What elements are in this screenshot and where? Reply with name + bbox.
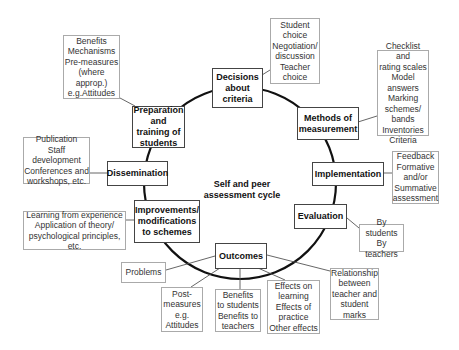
stage-improvements: Improvements/ modifications to schemes [134, 200, 200, 243]
detail-decisions: Student choice Negotiation/ discussion T… [270, 18, 320, 84]
stage-outcomes: Outcomes [215, 243, 267, 269]
stage-evaluation: Evaluation [294, 204, 347, 229]
stage-label: Decisions about criteria [213, 72, 262, 105]
center-label: Self and peer assessment cycle [190, 179, 294, 201]
stage-label: Dissemination [107, 168, 169, 179]
detail-implementation: Feedback Formative and/or Summative asse… [392, 151, 439, 204]
detail-text: Learning from experience Application of … [24, 210, 125, 252]
detail-text: Checklist and rating scales Model answer… [378, 41, 428, 146]
detail-text: Problems [126, 267, 162, 278]
detail-text: Publication Staff development Conference… [24, 134, 89, 187]
outcome-post-measures: Post- measures e.g. Attitudes [161, 287, 203, 332]
outcome-relationship: Relationship between teacher and student… [330, 268, 379, 320]
detail-improvements: Learning from experience Application of … [23, 211, 126, 250]
outcome-benefits: Benefits to students Benefits to teacher… [215, 289, 261, 332]
stage-label: Methods of measurement [299, 113, 358, 135]
stage-decisions: Decisions about criteria [212, 68, 263, 108]
detail-methods: Checklist and rating scales Model answer… [377, 50, 429, 136]
stage-label: Outcomes [219, 251, 263, 262]
detail-text: Benefits to students Benefits to teacher… [217, 290, 259, 332]
detail-dissemination: Publication Staff development Conference… [23, 137, 90, 184]
detail-text: Feedback Formative and/or Summative asse… [393, 151, 438, 204]
detail-text: Relationship between teacher and student… [331, 268, 378, 321]
stage-preparation: Preparation and training of students [132, 106, 185, 148]
assessment-cycle-diagram: Self and peer assessment cycle Decisions… [0, 0, 459, 350]
stage-implementation: Implementation [312, 162, 384, 186]
stage-label: Implementation [315, 169, 382, 180]
outcome-effects: Effects on learning Effects of practice … [267, 280, 320, 334]
stage-label: Improvements/ modifications to schemes [135, 205, 199, 238]
stage-methods: Methods of measurement [297, 107, 359, 140]
detail-text: Student choice Negotiation/ discussion T… [272, 20, 317, 83]
detail-text: Benefits Mechanisms Pre-measures (where … [65, 36, 118, 99]
detail-preparation: Benefits Mechanisms Pre-measures (where … [63, 35, 120, 99]
stage-label: Evaluation [298, 211, 344, 222]
outcome-problems: Problems [121, 262, 166, 283]
detail-text: Effects on learning Effects of practice … [269, 281, 318, 334]
stage-dissemination: Dissemination [107, 161, 168, 186]
detail-text: Post- measures e.g. Attitudes [163, 289, 200, 331]
stage-label: Preparation and training of students [133, 105, 183, 149]
detail-evaluation: By students By teachers [359, 224, 404, 252]
detail-text: By students By teachers [360, 217, 403, 259]
